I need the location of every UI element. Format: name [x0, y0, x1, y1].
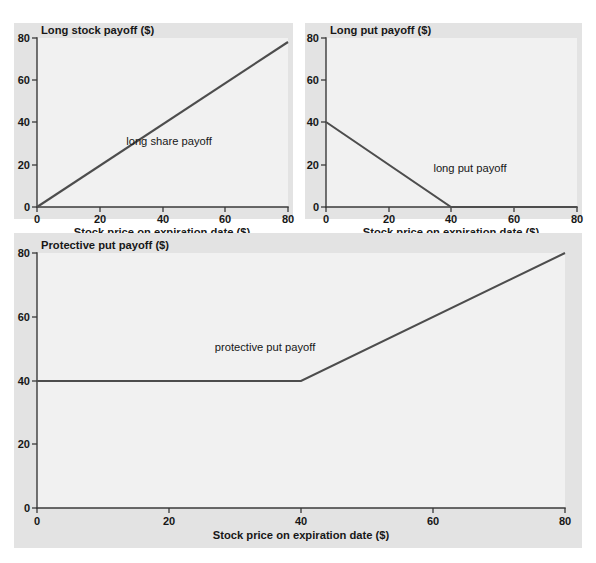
x-axis-title-protective-put: Stock price on expiration date ($): [213, 529, 390, 541]
x-tick-label-40-protective-put: 40: [295, 515, 307, 527]
x-tick-label-80-protective-put: 80: [559, 515, 571, 527]
y-tick-label-40-protective-put: 40: [18, 375, 30, 387]
y-tick-label-20-protective-put: 20: [18, 438, 30, 450]
x-tick-label-60-protective-put: 60: [427, 515, 439, 527]
x-tick-label-0-protective-put: 0: [34, 515, 40, 527]
y-tick-label-80-protective-put: 80: [18, 247, 30, 259]
chart-protective-put: 80 60 40 20 0 0 20 40 60 80 Protective p…: [0, 0, 596, 563]
y-axis-title-protective-put: Protective put payoff ($): [41, 239, 169, 251]
y-tick-label-60-protective-put: 60: [18, 311, 30, 323]
figure-container: 80 60 40 20 0 0 20 40 60 80 Long stock p…: [0, 0, 596, 563]
x-tick-label-20-protective-put: 20: [163, 515, 175, 527]
y-tick-label-0-protective-put: 0: [24, 502, 30, 514]
series-annotation-protective-put-payoff: protective put payoff: [215, 341, 316, 353]
